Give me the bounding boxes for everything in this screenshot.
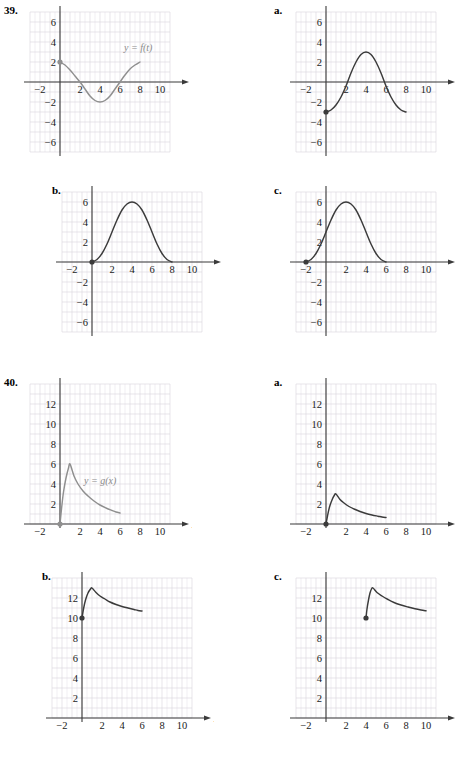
y-tick-label: 6 <box>83 197 88 208</box>
x-tick-label: 10 <box>421 84 432 95</box>
y-tick-label: −2 <box>311 277 322 288</box>
x-tick-label: 6 <box>383 720 388 731</box>
y-tick-label: −4 <box>311 297 323 308</box>
y-tick-label: 4 <box>73 673 79 684</box>
graph-40-main[interactable]: −224681012108642yxy = g(x) <box>22 378 192 546</box>
graph-canvas: −224681012108642y <box>288 572 458 740</box>
x-tick-label: −2 <box>300 720 311 731</box>
x-tick-label: 2 <box>109 264 114 275</box>
problem-39-option-a-panel: a. −2246810642−2−4−6y <box>266 0 432 180</box>
y-tick-label: 10 <box>312 613 323 624</box>
x-tick-label: 10 <box>177 720 188 731</box>
graph-canvas: −2246810642−2−4−6yty = f(t) <box>22 6 192 174</box>
y-tick-label: 10 <box>68 613 79 624</box>
x-tick-label: 2 <box>343 720 348 731</box>
x-tick-label: 10 <box>421 720 432 731</box>
x-tick-label: 6 <box>383 526 388 537</box>
endpoint-dot <box>57 59 62 64</box>
x-tick-label: 4 <box>97 526 103 537</box>
problem-39-number: 39. <box>4 4 18 16</box>
graph-40a[interactable]: −224681012108642y <box>288 378 458 546</box>
y-tick-label: −4 <box>45 117 57 128</box>
option-label-39a: a. <box>274 4 282 16</box>
graph-39c[interactable]: −2246810642−2−4−6y <box>288 186 458 354</box>
y-tick-label: 2 <box>73 693 78 704</box>
x-tick-label: 10 <box>421 526 432 537</box>
y-tick-label: 6 <box>317 459 322 470</box>
y-tick-label: 4 <box>317 217 323 228</box>
y-tick-label: 2 <box>51 499 56 510</box>
graph-canvas: −2246810642−2−4−6y <box>288 186 458 354</box>
y-tick-label: −6 <box>45 137 56 148</box>
x-tick-label: 8 <box>137 84 142 95</box>
x-tick-label: 10 <box>421 264 432 275</box>
x-axis-label: x <box>213 712 214 724</box>
axes <box>290 6 455 156</box>
y-tick-label: 4 <box>51 479 57 490</box>
y-tick-label: 8 <box>317 633 322 644</box>
problem-39-main-panel: 39. −2246810642−2−4−6yty = f(t) <box>0 0 220 180</box>
endpoint-dot <box>89 259 94 264</box>
x-tick-label: 10 <box>155 526 166 537</box>
y-tick-label: 6 <box>317 653 322 664</box>
x-tick-label: −2 <box>300 84 311 95</box>
x-tick-label: 4 <box>363 264 369 275</box>
x-tick-label: 10 <box>187 264 198 275</box>
x-tick-label: 6 <box>149 264 154 275</box>
graph-39a[interactable]: −2246810642−2−4−6y <box>288 6 458 174</box>
problem-40-number: 40. <box>4 376 18 388</box>
y-tick-label: −2 <box>45 97 56 108</box>
x-tick-label: −2 <box>34 526 45 537</box>
y-tick-label: 6 <box>317 197 322 208</box>
problem-39-option-b-panel: b. −2246810642−2−4−6yt <box>34 180 234 365</box>
y-tick-label: 6 <box>73 653 78 664</box>
y-tick-label: 2 <box>83 237 88 248</box>
endpoint-dot <box>323 109 328 114</box>
graph-canvas: −224681012108642y <box>288 378 458 546</box>
graph-39b[interactable]: −2246810642−2−4−6yt <box>54 186 224 354</box>
x-tick-label: 6 <box>117 526 122 537</box>
y-tick-label: 12 <box>68 593 79 604</box>
option-label-39c: c. <box>274 184 282 196</box>
y-tick-label: 2 <box>317 57 322 68</box>
x-tick-label: −2 <box>34 84 45 95</box>
x-tick-label: 2 <box>99 720 104 731</box>
y-tick-label: 12 <box>312 399 323 410</box>
y-tick-label: 2 <box>51 57 56 68</box>
y-tick-label: 4 <box>51 37 57 48</box>
x-tick-label: 4 <box>363 720 369 731</box>
option-label-40c: c. <box>274 570 282 582</box>
endpoint-dot <box>57 521 62 526</box>
y-tick-label: 10 <box>46 419 57 430</box>
x-tick-label: 8 <box>403 720 408 731</box>
y-tick-label: 2 <box>317 499 322 510</box>
axes <box>24 6 189 156</box>
graph-canvas: −2246810642−2−4−6yt <box>54 186 224 354</box>
x-tick-label: 2 <box>77 526 82 537</box>
problem-40-option-a-panel: a. −224681012108642y <box>266 372 432 562</box>
y-tick-label: 4 <box>317 479 323 490</box>
x-tick-label: 4 <box>363 84 369 95</box>
y-tick-label: 6 <box>317 17 322 28</box>
y-tick-label: 4 <box>83 217 89 228</box>
y-tick-label: −2 <box>77 277 88 288</box>
graph-40c[interactable]: −224681012108642y <box>288 572 458 740</box>
y-tick-label: 8 <box>51 439 56 450</box>
x-tick-label: 6 <box>139 720 144 731</box>
x-axis-label: x <box>191 518 192 530</box>
option-label-40a: a. <box>274 376 282 388</box>
y-tick-label: 12 <box>46 399 57 410</box>
y-tick-label: 4 <box>317 37 323 48</box>
y-tick-label: −6 <box>77 317 88 328</box>
graph-39-main[interactable]: −2246810642−2−4−6yty = f(t) <box>22 6 192 174</box>
y-tick-label: 12 <box>312 593 323 604</box>
axes <box>290 186 455 336</box>
graph-canvas: −224681012108642yxy = g(x) <box>22 378 192 546</box>
y-tick-label: −4 <box>77 297 89 308</box>
y-tick-label: 4 <box>317 673 323 684</box>
y-tick-label: 6 <box>51 459 56 470</box>
y-tick-label: −2 <box>311 97 322 108</box>
graph-40b[interactable]: −224681012108642yx <box>44 572 214 740</box>
y-tick-label: 10 <box>312 419 323 430</box>
x-tick-label: −2 <box>300 264 311 275</box>
